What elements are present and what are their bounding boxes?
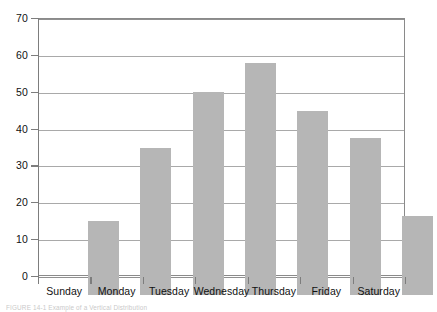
x-axis-tick — [405, 277, 406, 284]
x-axis-label: Tuesday — [149, 286, 189, 297]
x-axis-label: Saturday — [358, 286, 400, 297]
x-axis-label: Sunday — [46, 286, 82, 297]
x-axis-tick — [90, 277, 91, 284]
x-axis-tick — [353, 277, 354, 284]
x-axis-tick — [300, 277, 301, 284]
x-axis-label: Wednesday — [194, 286, 250, 297]
x-axis-label: Monday — [98, 286, 136, 297]
figure-caption: FIGURE 14-1 Example of a Vertical Distri… — [6, 304, 306, 312]
x-axis-tick — [195, 277, 196, 284]
x-axis-label: Thursday — [252, 286, 296, 297]
x-axis-tick — [143, 277, 144, 284]
x-axis-label: Friday — [312, 286, 341, 297]
x-axis-tick — [38, 277, 39, 284]
x-axis-tick — [248, 277, 249, 284]
